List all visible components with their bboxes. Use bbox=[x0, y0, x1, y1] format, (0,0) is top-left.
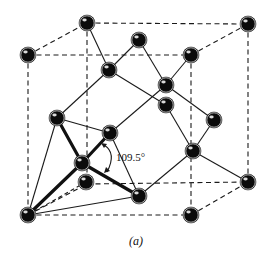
atom bbox=[131, 188, 147, 204]
bond-angle-indicator bbox=[101, 143, 111, 173]
bond-angle-label: 109.5° bbox=[116, 151, 145, 163]
atom bbox=[20, 47, 36, 63]
atom bbox=[158, 77, 174, 93]
atom bbox=[131, 32, 147, 48]
atom bbox=[101, 62, 117, 78]
atom bbox=[74, 155, 90, 171]
atom bbox=[49, 110, 65, 126]
atom bbox=[240, 174, 256, 190]
diamond-cubic-lattice-diagram: 109.5° (a) bbox=[0, 0, 274, 268]
atom bbox=[20, 207, 36, 223]
atom bbox=[183, 207, 199, 223]
atom bbox=[78, 174, 94, 190]
atom bbox=[185, 143, 201, 159]
atom bbox=[158, 97, 174, 113]
atoms bbox=[20, 15, 256, 223]
atom bbox=[183, 47, 199, 63]
figure-caption: (a) bbox=[129, 234, 143, 248]
atom bbox=[240, 16, 256, 32]
atom bbox=[206, 112, 222, 128]
atom bbox=[102, 125, 118, 141]
atom bbox=[79, 15, 95, 31]
